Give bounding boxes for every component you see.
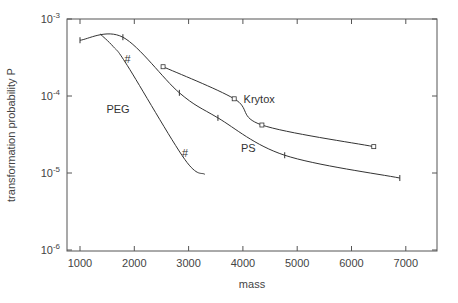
hash-marker-icon: # — [182, 147, 189, 159]
series-line-krytox — [163, 67, 374, 147]
chart: 1000200030004000500060007000 10-310-410-… — [0, 0, 458, 303]
x-tick-label: 1000 — [68, 257, 92, 269]
y-tick-label: 10-3 — [41, 11, 61, 25]
series-label-ps: PS — [241, 142, 256, 154]
plot-frame — [67, 19, 437, 251]
series-label-peg: PEG — [106, 103, 129, 115]
square-marker-icon — [372, 145, 376, 149]
x-tick-label: 4000 — [231, 257, 255, 269]
x-tick-label: 6000 — [339, 257, 363, 269]
y-tick-label: 10-5 — [41, 165, 61, 179]
square-marker-icon — [161, 65, 165, 69]
y-axis-title: transformation probability P — [5, 68, 17, 202]
x-tick-label: 2000 — [122, 257, 146, 269]
hash-marker-icon: # — [124, 53, 131, 65]
square-marker-icon — [260, 123, 264, 127]
x-tick-label: 5000 — [285, 257, 309, 269]
x-axis-title: mass — [239, 278, 266, 290]
series-label-krytox: Krytox — [244, 93, 276, 105]
x-tick-label: 3000 — [176, 257, 200, 269]
y-axis: 10-310-410-510-6 — [41, 11, 437, 256]
x-tick-label: 7000 — [394, 257, 418, 269]
y-tick-label: 10-4 — [41, 88, 61, 102]
annotations: PEGKrytoxPS## — [106, 53, 275, 159]
y-tick-label: 10-6 — [41, 242, 61, 256]
square-marker-icon — [232, 97, 236, 101]
